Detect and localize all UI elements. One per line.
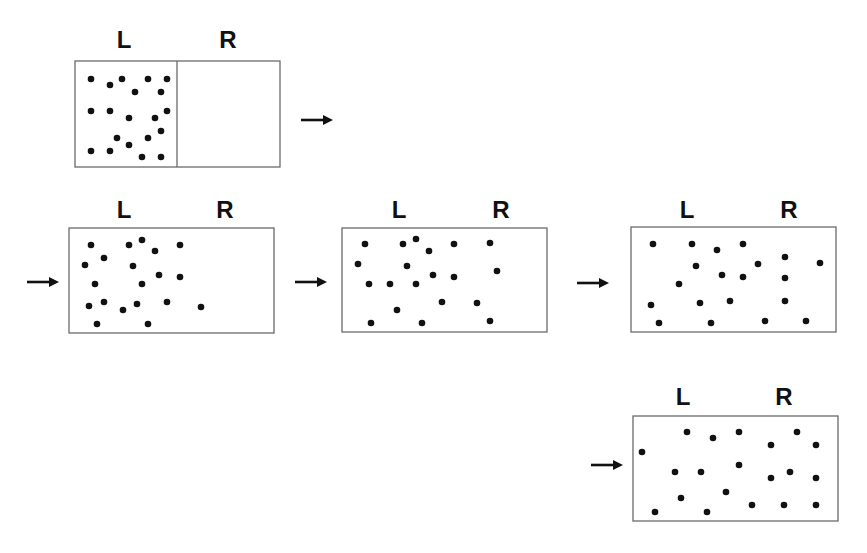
particle-dot [723,489,730,496]
particle-dot [198,304,205,311]
particle-dot [126,142,133,149]
particle-dot [156,272,163,279]
particle-dot [451,274,458,281]
particle-dot [164,76,171,83]
particle-dot [755,261,762,268]
particle-dot [451,241,458,248]
left-label: L [392,196,407,223]
particle-dot [782,298,789,305]
particle-dot [430,272,437,279]
arrow-right-icon [301,115,333,125]
left-label: L [117,196,132,223]
arrow-right-icon [577,278,609,288]
particle-dot [362,241,369,248]
container-box [631,227,836,332]
particle-dot [672,469,679,476]
particle-dot [387,281,394,288]
particle-dot [817,260,824,267]
particle-dot [474,300,481,307]
container-box [69,228,274,333]
particle-dot [164,299,171,306]
particle-dot [139,237,146,244]
particle-dot [419,320,426,327]
particle-dot [88,148,95,155]
particle-dot [704,509,711,516]
particle-dot [727,298,734,305]
particle-dot [768,442,775,449]
particle-dot [119,76,126,83]
particle-dot [82,262,89,269]
particle-dot [781,502,788,509]
particle-dot [782,254,789,261]
particle-dot [366,281,373,288]
particle-dot [101,299,108,306]
particle-dot [426,248,433,255]
right-label: R [780,196,797,223]
right-label: R [492,196,509,223]
particle-dot [107,108,114,115]
right-label: R [216,196,233,223]
particle-dot [86,303,93,310]
state-3: LR [342,196,547,332]
state-4: LR [631,196,836,332]
particle-dot [678,495,685,502]
particle-dot [676,281,683,288]
arrow-right-icon [295,277,327,287]
left-label: L [680,196,695,223]
particle-dot [126,115,133,122]
particle-dot [762,318,769,325]
particle-dot [684,429,691,436]
particle-dot [768,475,775,482]
particle-dot [813,475,820,482]
particle-dot [368,320,375,327]
diffusion-diagram: LRLRLRLRLR [0,0,867,553]
particle-dot [693,263,700,270]
particle-dot [88,76,95,83]
particle-dot [656,320,663,327]
left-label: L [117,26,132,53]
particle-dot [813,502,820,509]
particle-dot [145,321,152,328]
particle-dot [803,318,810,325]
state-2: LR [69,196,274,333]
particle-dot [710,435,717,442]
particle-dot [107,82,114,89]
particle-dot [134,301,141,308]
particle-dot [494,268,501,275]
particle-dot [439,299,446,306]
container-box [342,228,547,332]
particle-dot [749,502,756,509]
particle-dot [787,469,794,476]
particle-dot [355,261,362,268]
particle-dot [158,154,165,161]
particle-dot [740,241,747,248]
particle-dot [736,429,743,436]
particle-dot [145,135,152,142]
particle-dot [697,300,704,307]
particle-dot [719,272,726,279]
state-5: LR [633,383,838,521]
particle-dot [132,89,139,96]
particle-dot [158,89,165,96]
particle-dot [177,242,184,249]
particle-dot [648,302,655,309]
container-box [633,416,838,521]
particle-dot [158,128,165,135]
particle-dot [689,241,696,248]
particle-dot [164,108,171,115]
particle-dot [139,281,146,288]
particle-dot [139,154,146,161]
arrow-right-icon [27,277,59,287]
particle-dot [708,320,715,327]
particle-dot [639,449,646,456]
particle-dot [400,241,407,248]
particle-dot [487,240,494,247]
particle-dot [813,442,820,449]
particle-dot [88,242,95,249]
particle-dot [101,255,108,262]
particle-dot [650,241,657,248]
particle-dot [152,115,159,122]
particle-dot [394,307,401,314]
particle-dot [736,462,743,469]
particle-dot [794,429,801,436]
